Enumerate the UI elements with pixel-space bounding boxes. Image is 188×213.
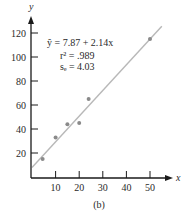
x-axis-ticks: 1020304050 — [51, 171, 155, 193]
y-tick-label: 100 — [11, 52, 26, 63]
y-tick-label: 120 — [11, 28, 26, 39]
x-tick-label: 30 — [98, 182, 108, 193]
y-axis-ticks: 20406080100120 — [11, 28, 38, 159]
data-point — [54, 135, 58, 139]
r-squared-text: r² = .989 — [60, 50, 94, 61]
data-point — [148, 37, 152, 41]
data-point — [87, 97, 91, 101]
x-tick-label: 40 — [121, 182, 131, 193]
data-point — [65, 122, 69, 126]
data-point — [77, 121, 81, 125]
equation-text: ŷ = 7.87 + 2.14x — [47, 37, 113, 48]
x-axis-arrow-icon — [165, 175, 173, 181]
y-axis-label: y — [28, 1, 34, 12]
y-tick-label: 80 — [16, 76, 26, 87]
y-tick-label: 20 — [16, 148, 26, 159]
x-axis-label: x — [175, 172, 181, 183]
standard-error-text: sₑ = 4.03 — [60, 61, 95, 72]
y-axis-arrow-icon — [28, 16, 34, 24]
figure-caption: (b) — [93, 199, 105, 211]
x-tick-label: 20 — [74, 182, 84, 193]
regression-annotation: ŷ = 7.87 + 2.14x r² = .989 sₑ = 4.03 — [47, 37, 113, 72]
x-tick-label: 50 — [145, 182, 155, 193]
x-tick-label: 10 — [51, 182, 61, 193]
scatter-chart: 20406080100120 1020304050 y x ŷ = 7.87 +… — [0, 0, 188, 213]
y-tick-label: 40 — [16, 124, 26, 135]
data-point — [41, 157, 45, 161]
y-tick-label: 60 — [16, 100, 26, 111]
